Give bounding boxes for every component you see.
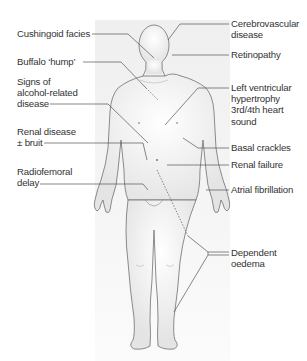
label-renal-disease-bruit: Renal disease ± bruit <box>17 126 76 148</box>
label-left-ventricular-hypertrophy: Left ventricular hypertrophy 3rd/4th hea… <box>231 82 292 127</box>
label-cerebrovascular-disease: Cerebrovascular disease <box>231 18 299 40</box>
body-outline <box>94 25 229 349</box>
head <box>139 25 169 65</box>
label-retinopathy: Retinopathy <box>231 49 281 60</box>
label-basal-crackles: Basal crackles <box>231 142 291 153</box>
label-alcohol-related-disease: Signs of alcohol-related disease <box>17 76 78 110</box>
label-cushingoid-facies: Cushingoid facies <box>17 28 90 39</box>
label-radiofemoral-delay: Radiofemoral delay <box>17 166 72 188</box>
legs <box>126 200 196 349</box>
label-dependent-oedema: Dependent oedema <box>231 247 277 269</box>
label-buffalo-hump: Buffalo ‘hump’ <box>17 56 76 67</box>
label-renal-failure: Renal failure <box>231 159 283 170</box>
label-atrial-fibrillation: Atrial fibrillation <box>231 184 293 195</box>
